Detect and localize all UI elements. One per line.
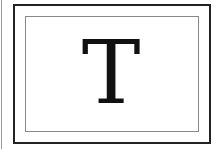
letter-t-glyph: T <box>25 16 197 130</box>
left-edge-divider <box>1 0 2 149</box>
